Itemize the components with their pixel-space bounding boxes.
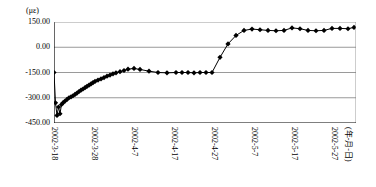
data-markers (54, 25, 356, 118)
x-axis-tick-label: 2002-4-27 (210, 127, 218, 160)
x-axis-caption: (年-月-日) (344, 127, 353, 162)
x-axis-tick-labels: 2002-3-182002-3-282002-4-72002-4-172002-… (54, 123, 356, 187)
x-axis-tick-label: 2002-4-17 (170, 127, 178, 160)
x-axis-tick-label: 2002-4-7 (130, 127, 138, 156)
plot-area (54, 22, 356, 123)
plot-svg (54, 22, 356, 123)
y-axis-tick-labels: 150.000.00-150.00-300.00-450.00 (2, 0, 50, 187)
y-axis-tick-label: -450.00 (4, 119, 50, 127)
x-axis-tick-label: 2002-5-7 (250, 127, 258, 156)
x-axis-tick-label: 2002-5-27 (330, 127, 338, 160)
x-axis-tick-label: 2002-5-17 (290, 127, 298, 160)
y-axis-tick-label: 0.00 (4, 43, 50, 51)
y-axis-tick-label: -150.00 (4, 69, 50, 77)
strain-time-series-chart: (με) 150.000.00-150.00-300.00-450.00 200… (0, 0, 376, 187)
y-axis-tick-label: 150.00 (4, 18, 50, 26)
y-axis-tick-label: -300.00 (4, 94, 50, 102)
x-axis-tick-label: 2002-3-28 (90, 127, 98, 160)
x-axis-tick-label: 2002-3-18 (50, 127, 58, 160)
data-line (54, 27, 354, 115)
